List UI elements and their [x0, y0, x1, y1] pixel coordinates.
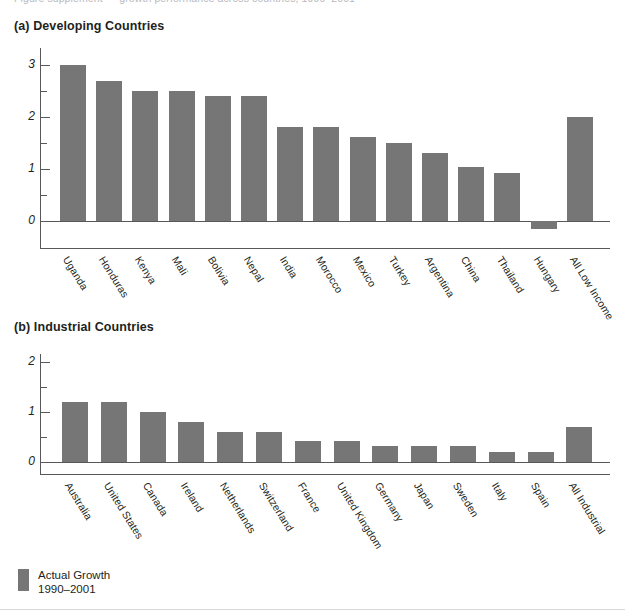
plot-area-a: 0123UgandaHondurasKenyaMaliBoliviaNepalI… [40, 40, 618, 250]
bar [217, 432, 243, 462]
y-tick-major [41, 117, 50, 118]
y-tick-label: 0 [13, 214, 35, 226]
bar [60, 65, 86, 221]
x-axis-label: All Low Income [568, 254, 617, 322]
y-tick-minor [41, 437, 47, 438]
x-axis-label: Kenya [133, 254, 159, 286]
bar [531, 221, 557, 229]
x-axis-label: Germany [373, 480, 406, 524]
bar [528, 452, 554, 462]
x-axis-label: Turkey [387, 254, 414, 288]
bar [450, 446, 476, 462]
bar [241, 96, 267, 221]
chart-developing-countries: 0123UgandaHondurasKenyaMaliBoliviaNepalI… [40, 40, 618, 250]
y-tick-major [41, 412, 50, 413]
x-axis-label: China [459, 254, 484, 284]
x-axis-label: Mali [169, 254, 190, 277]
bar [132, 91, 158, 221]
x-axis-label: Netherlands [218, 480, 259, 535]
y-tick-minor [41, 91, 47, 92]
y-tick-major [41, 169, 50, 170]
x-axis-label: France [296, 480, 324, 515]
x-axis-label: Nepal [242, 254, 267, 284]
x-axis-label: Mexico [350, 254, 378, 289]
x-axis-label: Morocco [314, 254, 346, 295]
x-axis-label: Spain [528, 480, 553, 510]
bar [205, 96, 231, 221]
y-tick-major [41, 65, 50, 66]
bar [313, 127, 339, 221]
page-bottom-rule [0, 609, 625, 610]
x-axis-label: Canada [140, 480, 170, 518]
x-axis-label: All Industrial [567, 480, 608, 536]
bar [494, 173, 520, 221]
legend-label: Actual Growth 1990–2001 [38, 568, 110, 596]
bar [295, 441, 321, 462]
bar [169, 91, 195, 221]
bar [372, 446, 398, 462]
bar [277, 127, 303, 221]
y-tick-label: 3 [13, 58, 35, 70]
y-tick-label: 1 [13, 162, 35, 174]
plot-area-b: 012AustraliaUnited StatesCanadaIrelandNe… [40, 352, 618, 474]
x-axis-label: Honduras [97, 254, 132, 300]
bar [566, 427, 592, 462]
y-tick-minor [41, 195, 47, 196]
figure-page: Figure supplement — growth performance a… [0, 0, 625, 614]
x-axis-label: Hungary [531, 254, 563, 295]
zero-baseline [40, 221, 610, 222]
y-tick-minor [41, 387, 47, 388]
bar [140, 412, 166, 462]
y-tick-label: 2 [13, 355, 35, 367]
bar [62, 402, 88, 462]
bar [334, 441, 360, 462]
bar [411, 446, 437, 462]
y-tick-label: 0 [13, 455, 35, 467]
y-tick-major [41, 221, 50, 222]
y-tick-label: 1 [13, 405, 35, 417]
bar [101, 402, 127, 462]
bar [567, 117, 593, 221]
x-axis-label: India [278, 254, 301, 280]
x-axis-label: Uganda [61, 254, 91, 292]
bar [256, 432, 282, 462]
bar [422, 153, 448, 221]
bar [386, 143, 412, 221]
y-tick-label: 2 [13, 110, 35, 122]
x-axis-label: Sweden [451, 480, 482, 519]
bar [350, 137, 376, 221]
y-tick-major [41, 362, 50, 363]
legend-line-1: Actual Growth [38, 568, 110, 582]
frame-bottom-line [40, 248, 610, 249]
x-axis-label: Argentina [423, 254, 457, 299]
frame-bottom-line [40, 474, 610, 475]
x-axis-label: Australia [63, 480, 95, 522]
y-axis-line [40, 48, 41, 248]
bar [96, 81, 122, 221]
x-axis-label: Thailand [495, 254, 527, 295]
chart-industrial-countries: 012AustraliaUnited StatesCanadaIrelandNe… [40, 352, 618, 474]
x-axis-label: Japan [412, 480, 438, 511]
panel-b-title: (b) Industrial Countries [14, 320, 154, 334]
x-axis-label: Switzerland [257, 480, 297, 533]
x-axis-label: Ireland [179, 480, 207, 514]
figure-legend: Actual Growth 1990–2001 [18, 568, 110, 596]
y-axis-line [40, 354, 41, 474]
y-tick-major [41, 462, 50, 463]
bar [489, 452, 515, 462]
x-axis-label: Bolivia [206, 254, 233, 287]
bar [458, 167, 484, 221]
y-tick-minor [41, 143, 47, 144]
cut-off-caption: Figure supplement — growth performance a… [14, 0, 614, 4]
bar [178, 422, 204, 462]
x-axis-label: Italy [490, 480, 511, 503]
legend-line-2: 1990–2001 [38, 582, 110, 596]
panel-a-title: (a) Developing Countries [14, 19, 164, 33]
actual-growth-swatch [18, 569, 29, 591]
x-axis-label: United States [102, 480, 146, 541]
zero-baseline [40, 462, 610, 463]
